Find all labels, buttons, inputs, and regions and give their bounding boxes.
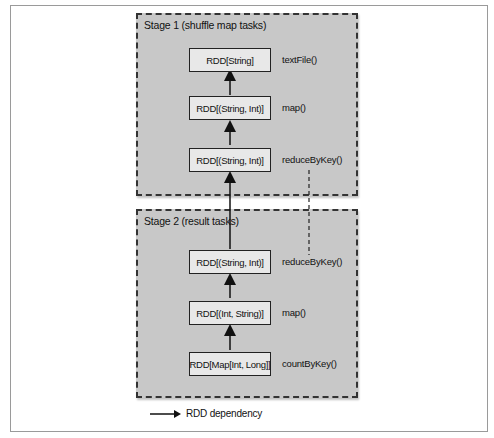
op-label: countByKey() bbox=[282, 358, 337, 369]
legend-label: RDD dependency bbox=[186, 408, 262, 419]
rdd-node: RDD[String] bbox=[189, 48, 271, 72]
rdd-node: RDD[(String, Int)] bbox=[189, 96, 271, 120]
arrow-right-icon bbox=[150, 409, 182, 419]
rdd-node: RDD[Map[Int, Long]] bbox=[189, 352, 271, 376]
node-label: RDD[(String, Int)] bbox=[196, 257, 263, 268]
op-label: reduceByKey() bbox=[282, 256, 342, 267]
legend: RDD dependency bbox=[150, 408, 262, 419]
node-label: RDD[(String, Int)] bbox=[196, 103, 263, 114]
op-label: textFile() bbox=[282, 54, 317, 65]
node-label: RDD[(Int, String)] bbox=[196, 308, 263, 319]
node-label: RDD[String] bbox=[206, 55, 253, 66]
node-label: RDD[(String, Int)] bbox=[196, 155, 263, 166]
op-label: reduceByKey() bbox=[282, 154, 342, 165]
rdd-node: RDD[(String, Int)] bbox=[189, 148, 271, 172]
rdd-node: RDD[(Int, String)] bbox=[189, 301, 271, 325]
op-label: map() bbox=[282, 102, 306, 113]
node-label: RDD[Map[Int, Long]] bbox=[190, 359, 271, 370]
op-label: map() bbox=[282, 307, 306, 318]
rdd-node: RDD[(String, Int)] bbox=[189, 250, 271, 274]
